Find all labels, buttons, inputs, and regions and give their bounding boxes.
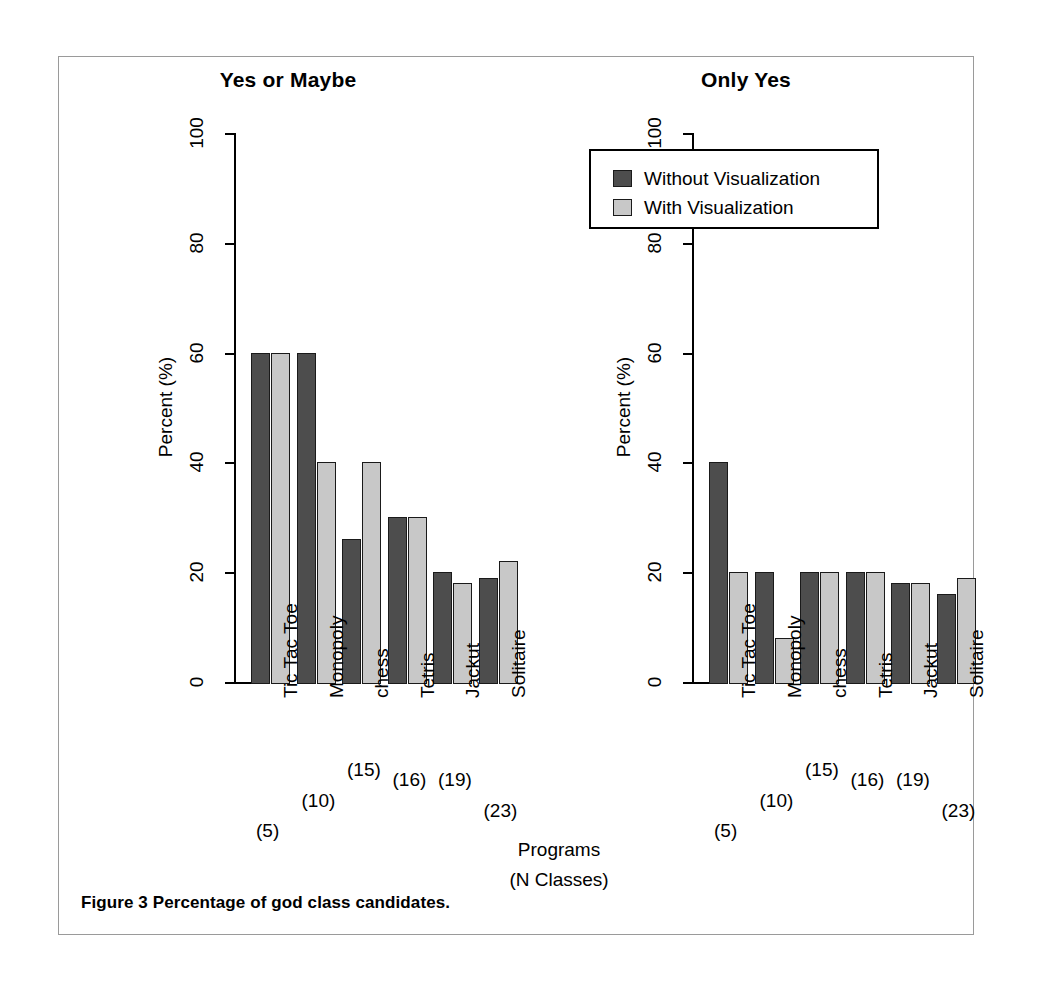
x-axis-category-count: (23)	[484, 800, 518, 822]
x-axis-category-label: Jackut	[462, 643, 484, 698]
y-axis-tick	[683, 682, 692, 684]
y-axis-tick-label: 40	[644, 436, 666, 488]
chart-legend: Without VisualizationWith Visualization	[589, 149, 879, 229]
panel-title-left: Yes or Maybe	[59, 68, 517, 92]
x-axis-category-count: (5)	[256, 820, 279, 842]
x-axis-category-count: (19)	[896, 769, 930, 791]
y-axis-tick-label: 60	[644, 327, 666, 379]
chart-plot-area: Yes or Maybe Percent (%) 020406080100 Ti…	[59, 57, 975, 884]
legend-label: With Visualization	[644, 198, 794, 217]
y-axis-tick	[225, 682, 234, 684]
x-axis-category-count: (10)	[760, 790, 794, 812]
x-axis-category-count: (15)	[805, 759, 839, 781]
y-axis-tick-label: 0	[644, 656, 666, 708]
y-axis-tick	[225, 462, 234, 464]
y-axis-tick	[683, 243, 692, 245]
x-axis-baseline	[234, 682, 251, 684]
x-axis-category-label: Tetris	[417, 653, 439, 698]
bar	[251, 353, 270, 684]
x-axis-baseline	[692, 682, 709, 684]
x-axis-title-line1: Programs	[479, 839, 639, 861]
figure-caption: Figure 3 Percentage of god class candida…	[81, 893, 450, 913]
x-axis-category-label: Jackut	[920, 643, 942, 698]
y-axis-tick	[683, 572, 692, 574]
x-axis-title-line2: (N Classes)	[479, 869, 639, 891]
x-axis-category-label: Monopoly	[326, 616, 348, 698]
chart-panel-yes-or-maybe: Yes or Maybe Percent (%) 020406080100 Ti…	[59, 57, 517, 884]
y-axis-tick-label: 0	[186, 656, 208, 708]
x-axis-category-label: Tic Tac Toe	[280, 603, 302, 698]
x-axis-category-label: chess	[829, 648, 851, 698]
y-axis-tick	[225, 133, 234, 135]
y-axis-title-right: Percent (%)	[613, 347, 635, 467]
legend-item: With Visualization	[613, 198, 794, 217]
x-axis-category-label: Solitaire	[966, 629, 988, 698]
figure-container: Yes or Maybe Percent (%) 020406080100 Ti…	[58, 56, 974, 935]
y-axis-tick	[683, 133, 692, 135]
y-axis-tick-label: 100	[186, 107, 208, 159]
y-axis-tick-label: 20	[644, 546, 666, 598]
y-axis-tick	[225, 572, 234, 574]
x-axis-category-label: Monopoly	[784, 616, 806, 698]
bar	[709, 462, 728, 684]
y-axis-title-left: Percent (%)	[155, 347, 177, 467]
y-axis-tick	[683, 353, 692, 355]
x-axis-category-label: Tetris	[875, 653, 897, 698]
legend-item: Without Visualization	[613, 169, 820, 188]
x-axis-category-count: (5)	[714, 820, 737, 842]
y-axis-tick-label: 40	[186, 436, 208, 488]
x-axis-category-label: Tic Tac Toe	[738, 603, 760, 698]
x-axis-category-count: (15)	[347, 759, 381, 781]
y-axis-tick-label: 80	[186, 217, 208, 269]
y-axis-tick	[225, 243, 234, 245]
legend-swatch-icon	[613, 170, 632, 187]
y-axis-tick-label: 60	[186, 327, 208, 379]
x-axis-category-count: (16)	[393, 769, 427, 791]
x-axis-category-count: (19)	[438, 769, 472, 791]
x-axis-category-count: (10)	[302, 790, 336, 812]
chart-panel-only-yes: Only Yes Percent (%) 020406080100 Tic Ta…	[517, 57, 975, 884]
y-axis-tick-label: 20	[186, 546, 208, 598]
y-axis-line	[234, 133, 236, 684]
legend-label: Without Visualization	[644, 169, 820, 188]
legend-swatch-icon	[613, 199, 632, 216]
y-axis-tick	[225, 353, 234, 355]
x-axis-category-count: (23)	[942, 800, 976, 822]
y-axis-tick	[683, 462, 692, 464]
x-axis-category-label: chess	[371, 648, 393, 698]
x-axis-category-count: (16)	[851, 769, 885, 791]
panel-title-right: Only Yes	[517, 68, 975, 92]
